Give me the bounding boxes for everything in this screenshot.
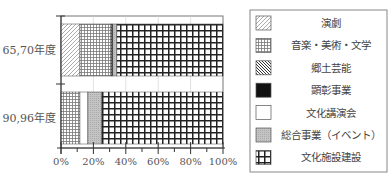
bar-group [61, 24, 223, 76]
x-tick-label: 0% [53, 156, 69, 167]
legend-label: 総合事業（イベント） [281, 129, 381, 141]
bar-segment [88, 92, 102, 144]
y-tick-label: 65,70年度 [3, 43, 57, 57]
legend-label: 音楽・美術・文学 [291, 39, 371, 51]
bar-segment [80, 92, 88, 144]
bar-segment [80, 24, 111, 76]
legend-label: 郷土芸能 [311, 62, 352, 74]
legend-label: 文化施設建設 [301, 151, 362, 163]
legend-swatch [256, 150, 271, 164]
x-tick-label: 40% [115, 156, 137, 167]
legend-swatch [256, 38, 271, 52]
bar-group [61, 92, 223, 144]
legend-swatch [256, 83, 271, 97]
y-tick-label: 90,96年度 [3, 111, 57, 125]
legend-item: 文化講演会 [256, 106, 357, 120]
x-axis-tick-labels: 0%20%40%60%80%100% [53, 156, 237, 167]
legend-swatch [256, 16, 271, 30]
bar-segment [113, 24, 117, 76]
bar-segment [117, 24, 223, 76]
legend-label: 文化講演会 [306, 107, 357, 119]
x-tick-label: 100% [209, 156, 238, 167]
stacked-bar-chart: 65,70年度90,96年度 0%20%40%60%80%100% 演劇音楽・美… [0, 0, 390, 177]
x-tick-label: 80% [179, 156, 201, 167]
legend-swatch [256, 106, 271, 120]
x-tick-label: 20% [82, 156, 104, 167]
bar-segment [61, 92, 80, 144]
legend-label: 顕彰事業 [311, 84, 352, 96]
bars [61, 24, 223, 144]
x-tick-label: 60% [147, 156, 169, 167]
legend-swatch [256, 61, 271, 75]
legend-label: 演劇 [321, 17, 341, 29]
bar-segment [102, 92, 223, 144]
legend: 演劇音楽・美術・文学郷土芸能顕彰事業文化講演会総合事業（イベント）文化施設建設 [250, 10, 387, 172]
bar-segment [61, 24, 80, 76]
legend-swatch [256, 128, 271, 142]
plot-area: 65,70年度90,96年度 0%20%40%60%80%100% [3, 16, 238, 167]
y-axis-labels: 65,70年度90,96年度 [3, 43, 57, 125]
